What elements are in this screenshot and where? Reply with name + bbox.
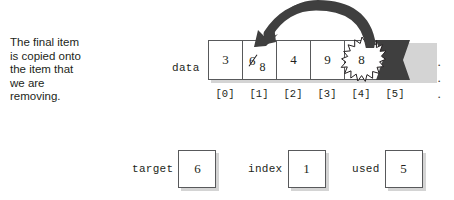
variable-used-box-wrap: 5	[385, 150, 423, 188]
caption-text: The final item is copied onto the item t…	[10, 36, 130, 104]
variable-target-label: target	[132, 163, 173, 175]
variable-used-label: used	[352, 163, 380, 175]
variable-used-box[interactable]: 5	[385, 150, 423, 188]
array-cells: 3 6 8 4 9 8	[208, 40, 412, 80]
variable-target-box-wrap: 6	[178, 150, 216, 188]
variable-index-box[interactable]: 1	[288, 150, 326, 188]
index-label-0: [0]	[208, 88, 242, 100]
array-index-labels: [0] [1] [2] [3] [4] [5]	[208, 88, 412, 100]
variable-used-value: 5	[400, 161, 407, 177]
array-cell-1-old-value-strikethrough: 6	[249, 54, 256, 67]
variable-index: index 1	[248, 150, 326, 188]
variable-target-value: 6	[194, 161, 201, 177]
variable-target: target 6	[132, 150, 216, 188]
array-cell-0[interactable]: 3	[208, 40, 242, 80]
diagram-canvas: The final item is copied onto the item t…	[0, 0, 454, 200]
index-label-1: [1]	[242, 88, 276, 100]
array-cell-4-value: 8	[358, 52, 365, 68]
array-continuation-ellipsis: · · ·	[437, 57, 454, 105]
array-cell-2[interactable]: 4	[276, 40, 310, 80]
array-cell-0-value: 3	[222, 52, 229, 68]
array-cell-1-value: 8	[260, 61, 266, 73]
array-cell-2-value: 4	[290, 52, 297, 68]
index-label-5: [5]	[378, 88, 412, 100]
variable-index-box-wrap: 1	[288, 150, 326, 188]
array-cell-3-value: 9	[324, 52, 331, 68]
array-cell-1[interactable]: 6 8	[242, 40, 276, 80]
array-cell-4[interactable]: 8	[344, 40, 378, 80]
array-variable-label: data	[172, 62, 200, 74]
index-label-2: [2]	[276, 88, 310, 100]
variable-index-value: 1	[303, 161, 310, 177]
variable-target-box[interactable]: 6	[178, 150, 216, 188]
variable-used: used 5	[352, 150, 423, 188]
index-label-4: [4]	[344, 88, 378, 100]
index-label-3: [3]	[310, 88, 344, 100]
variable-index-label: index	[248, 163, 283, 175]
